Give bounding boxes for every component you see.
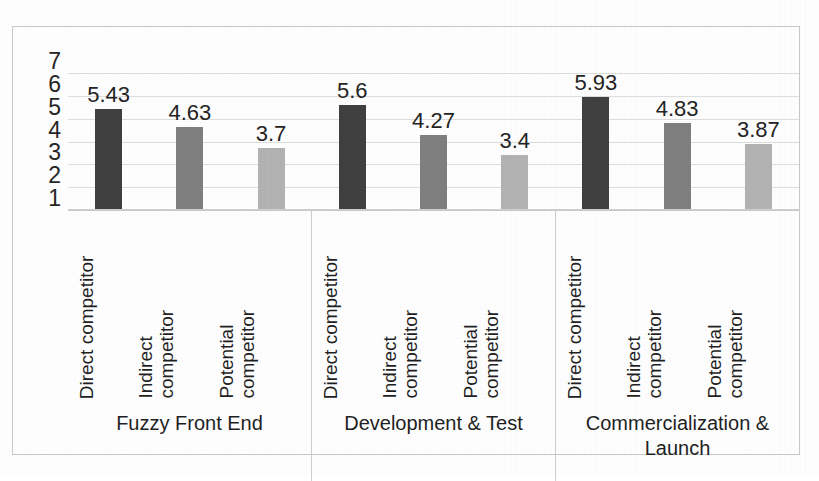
bar-value-label: 5.6 xyxy=(337,80,368,102)
bar-value-label: 4.83 xyxy=(656,98,699,120)
category-label: Indirect competitor xyxy=(379,281,422,399)
y-axis-tick-2: 2 xyxy=(27,164,61,187)
category-label: Indirect competitor xyxy=(135,281,178,399)
bar-3-3[interactable]: 3.87 xyxy=(745,144,772,210)
group-column-1: Direct competitorIndirect competitorPote… xyxy=(68,211,312,481)
bar-3-1[interactable]: 5.93 xyxy=(582,97,609,210)
rotated-labels: Direct competitorIndirect competitorPote… xyxy=(556,211,799,403)
y-axis-tick-3: 3 xyxy=(27,141,61,164)
bar-value-label: 4.27 xyxy=(412,110,455,132)
rotated-label-cell: Potential competitor xyxy=(718,211,799,403)
bar-2-3[interactable]: 3.4 xyxy=(501,155,528,210)
rotated-labels: Direct competitorIndirect competitorPote… xyxy=(312,211,555,403)
group-name-label: Development & Test xyxy=(316,411,551,436)
bar-value-label: 5.43 xyxy=(87,84,130,106)
rotated-labels: Direct competitorIndirect competitorPote… xyxy=(68,211,311,403)
rotated-label-cell: Potential competitor xyxy=(230,211,311,403)
bar-value-label: 5.93 xyxy=(575,72,618,94)
bar-value-label: 3.7 xyxy=(256,123,287,145)
y-axis: 7654321 xyxy=(27,61,61,213)
group-column-2: Direct competitorIndirect competitorPote… xyxy=(312,211,556,481)
group-name-label: Commercialization & Launch xyxy=(560,411,795,461)
category-label: Direct competitor xyxy=(319,213,340,399)
bar-value-label: 4.63 xyxy=(168,102,211,124)
category-label: Direct competitor xyxy=(75,213,96,399)
bar-1-2[interactable]: 4.63 xyxy=(176,127,203,210)
gridline-7 xyxy=(68,73,799,74)
bar-3-2[interactable]: 4.83 xyxy=(664,123,691,210)
chart-frame: 7654321 5.434.633.75.64.273.45.934.833.8… xyxy=(12,26,800,455)
y-axis-tick-5: 5 xyxy=(27,96,61,119)
bar-2-1[interactable]: 5.6 xyxy=(339,105,366,210)
bar-1-1[interactable]: 5.43 xyxy=(95,109,122,210)
plot-area: 5.434.633.75.64.273.45.934.833.87 xyxy=(68,73,799,210)
bar-value-label: 3.87 xyxy=(737,119,780,141)
category-label: Direct competitor xyxy=(563,213,584,399)
y-axis-tick-7: 7 xyxy=(27,50,61,73)
bar-1-3[interactable]: 3.7 xyxy=(258,148,285,210)
bar-2-2[interactable]: 4.27 xyxy=(420,135,447,210)
rotated-label-cell: Potential competitor xyxy=(474,211,555,403)
category-label: Potential competitor xyxy=(460,281,503,399)
y-axis-tick-1: 1 xyxy=(27,187,61,210)
category-label: Indirect competitor xyxy=(623,281,666,399)
category-label-band: Direct competitorIndirect competitorPote… xyxy=(68,210,799,481)
y-axis-tick-4: 4 xyxy=(27,119,61,142)
bar-value-label: 3.4 xyxy=(499,130,530,152)
group-name-label: Fuzzy Front End xyxy=(72,411,307,436)
y-axis-tick-6: 6 xyxy=(27,73,61,96)
category-label: Potential competitor xyxy=(216,281,259,399)
category-label: Potential competitor xyxy=(704,281,747,399)
group-column-3: Direct competitorIndirect competitorPote… xyxy=(556,211,799,481)
